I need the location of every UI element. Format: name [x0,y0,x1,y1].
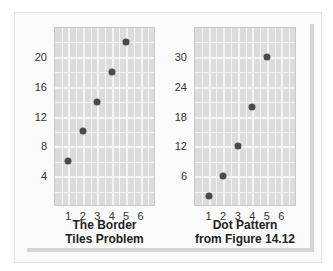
y-tick-label: 24 [161,81,187,93]
grid-line-horizontal [55,42,154,43]
y-tick-label: 30 [161,51,187,63]
grid-line-horizontal [195,42,295,43]
grid-line-horizontal [195,132,295,133]
frame-shadow-bottom [27,248,314,252]
data-point [79,128,86,135]
y-tick-label: 12 [21,111,47,123]
grid-line-horizontal [195,162,295,163]
caption-line-2: from Figure 14.12 [194,232,296,246]
data-point [205,193,212,200]
caption-line-1: The Border [54,218,155,232]
plot-area [194,27,296,206]
y-tick-label: 16 [21,81,47,93]
caption-line-2: Tiles Problem [54,232,155,246]
grid-line-horizontal [55,192,154,193]
data-point [65,158,72,165]
plot-area [54,27,155,206]
data-point [220,173,227,180]
data-point [234,143,241,150]
y-tick-label: 18 [161,111,187,123]
grid-line-horizontal [195,102,295,103]
data-point [94,98,101,105]
grid-line-horizontal [195,117,295,119]
grid-line-horizontal [195,57,295,59]
grid-line-horizontal [55,176,154,178]
y-tick-label: 4 [21,170,47,182]
data-point [108,68,115,75]
caption-line-1: Dot Pattern [194,218,296,232]
grid-line-horizontal [55,57,154,59]
grid-line-horizontal [195,72,295,73]
grid-line-horizontal [55,87,154,89]
data-point [249,103,256,110]
caption-dot-pattern: Dot Pattern from Figure 14.12 [194,218,296,246]
grid-line-horizontal [55,132,154,133]
grid-line-horizontal [195,176,295,178]
y-tick-label: 6 [161,170,187,182]
y-tick-label: 8 [21,140,47,152]
y-tick-label: 20 [21,51,47,63]
data-point [263,53,270,60]
grid-line-horizontal [55,72,154,73]
grid-line-horizontal [195,146,295,148]
frame-shadow-right [310,24,314,252]
grid-line-horizontal [55,146,154,148]
grid-line-horizontal [55,102,154,103]
data-point [123,38,130,45]
caption-border-tiles: The Border Tiles Problem [54,218,155,246]
grid-line-horizontal [195,87,295,89]
y-tick-label: 12 [161,140,187,152]
grid-line-horizontal [55,117,154,119]
